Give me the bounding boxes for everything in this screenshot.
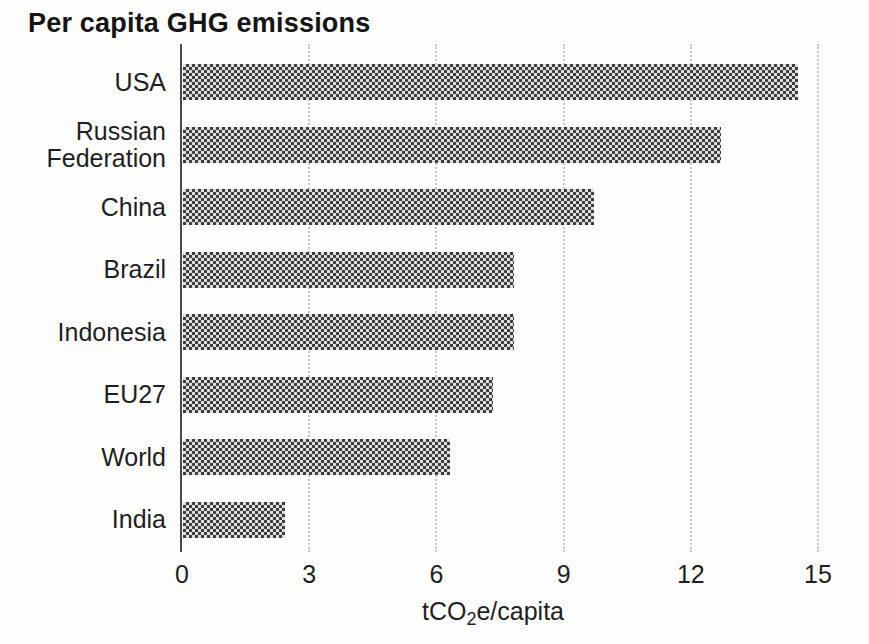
gridline-x-6 <box>435 44 437 552</box>
x-axis-label-suffix: e/capita <box>476 597 564 625</box>
bar-chart-figure: Per capita GHG emissions USARussian Fede… <box>0 0 869 644</box>
bar-indonesia <box>183 314 514 350</box>
gridline-x-3 <box>308 44 310 552</box>
x-tick-label-12: 12 <box>661 560 721 589</box>
bar-india <box>183 502 285 538</box>
category-label-eu27: EU27 <box>0 365 166 425</box>
x-tick-label-6: 6 <box>406 560 466 589</box>
category-label-india: India <box>0 490 166 550</box>
category-label-usa: USA <box>0 52 166 112</box>
x-axis-label: tCO2e/capita <box>368 597 618 626</box>
x-axis-label-subscript: 2 <box>466 609 476 629</box>
gridline-x-12 <box>690 44 692 552</box>
category-label-brazil: Brazil <box>0 240 166 300</box>
x-axis-label-prefix: tCO <box>422 597 466 625</box>
bar-eu27 <box>183 377 493 413</box>
gridline-x-9 <box>563 44 565 552</box>
category-label-russian-federation: Russian Federation <box>0 115 166 175</box>
x-tick-label-3: 3 <box>279 560 339 589</box>
gridline-x-15 <box>817 44 819 552</box>
bar-world <box>183 439 450 475</box>
category-label-world: World <box>0 427 166 487</box>
y-axis-line <box>180 44 182 552</box>
bar-usa <box>183 64 798 100</box>
x-tick-label-0: 0 <box>152 560 212 589</box>
bar-russian-federation <box>183 127 721 163</box>
x-tick-label-15: 15 <box>788 560 848 589</box>
x-tick-label-9: 9 <box>534 560 594 589</box>
chart-title: Per capita GHG emissions <box>28 8 370 39</box>
category-label-indonesia: Indonesia <box>0 302 166 362</box>
bar-brazil <box>183 252 514 288</box>
bar-china <box>183 189 594 225</box>
category-label-china: China <box>0 177 166 237</box>
